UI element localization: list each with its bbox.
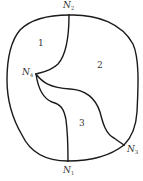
region-label-1: 1 (38, 39, 44, 48)
edge-N3-N1 (68, 145, 124, 161)
diagram-canvas: N2 N4 N3 N1 1 2 3 (0, 0, 143, 181)
region-label-2: 2 (97, 61, 103, 70)
graph-svg (0, 0, 143, 181)
node-label-N2: N2 (63, 1, 74, 11)
node-label-N3: N3 (127, 145, 138, 155)
node-label-N4: N4 (22, 68, 33, 78)
region-label-3: 3 (79, 119, 85, 128)
edge-N4-N1 (36, 74, 68, 161)
node-label-N1: N1 (63, 166, 74, 176)
edge-N4-N3 (36, 74, 124, 145)
